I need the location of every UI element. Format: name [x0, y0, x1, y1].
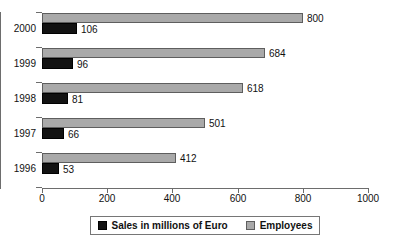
x-axis-tick-label: 200: [87, 193, 127, 204]
bar-sales[interactable]: [42, 93, 68, 104]
x-axis-tick-label: 400: [152, 193, 192, 204]
bar-value-employees: 618: [247, 83, 264, 94]
x-axis-tick-label: 600: [218, 193, 258, 204]
legend-swatch-employees-icon: [246, 221, 255, 230]
bar-value-sales: 53: [63, 164, 74, 175]
chart-legend: Sales in millions of Euro Employees: [90, 216, 320, 235]
bar-employees[interactable]: [42, 83, 243, 93]
bar-value-sales: 81: [72, 94, 83, 105]
legend-entry-sales[interactable]: Sales in millions of Euro: [98, 220, 228, 231]
bar-sales[interactable]: [42, 163, 59, 174]
bar-employees[interactable]: [42, 153, 176, 163]
x-axis-tick-label: 800: [283, 193, 323, 204]
bar-sales[interactable]: [42, 23, 77, 34]
bar-employees[interactable]: [42, 13, 303, 23]
bar-value-employees: 412: [180, 153, 197, 164]
bar-value-employees: 800: [307, 13, 324, 24]
bar-chart: 8001062000684961999618811998501661997412…: [0, 0, 400, 246]
legend-label-employees: Employees: [260, 220, 313, 231]
bar-value-employees: 684: [269, 48, 286, 59]
bar-sales[interactable]: [42, 128, 64, 139]
category-label-2000: 2000: [2, 23, 36, 34]
category-label-1999: 1999: [2, 58, 36, 69]
x-axis-line: [42, 188, 369, 189]
legend-swatch-sales-icon: [98, 221, 107, 230]
x-axis-tick-label: 1000: [348, 193, 388, 204]
bar-value-sales: 66: [68, 129, 79, 140]
bar-value-sales: 106: [81, 24, 98, 35]
x-axis-tick-label: 0: [22, 193, 62, 204]
legend-label-sales: Sales in millions of Euro: [112, 220, 228, 231]
category-label-1998: 1998: [2, 93, 36, 104]
bar-sales[interactable]: [42, 58, 73, 69]
legend-entry-employees[interactable]: Employees: [246, 220, 313, 231]
y-axis-line: [0, 12, 1, 189]
bar-employees[interactable]: [42, 118, 205, 128]
category-label-1997: 1997: [2, 128, 36, 139]
bar-value-employees: 501: [209, 118, 226, 129]
bar-employees[interactable]: [42, 48, 265, 58]
bar-value-sales: 96: [77, 59, 88, 70]
category-label-1996: 1996: [2, 163, 36, 174]
